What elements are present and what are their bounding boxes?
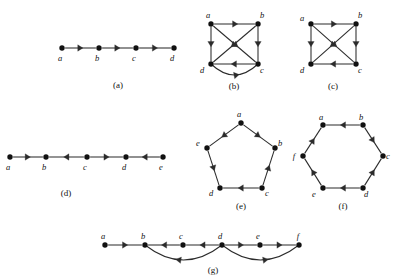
arrowhead (210, 165, 216, 171)
vertex-e-b (272, 145, 277, 150)
arrowhead (64, 154, 69, 160)
vertex-c-a (308, 21, 313, 26)
edge-g-d-f (222, 245, 299, 263)
vertex-a-c (133, 45, 138, 50)
vertex-g-e (257, 242, 262, 247)
edge-e-a-e (209, 125, 238, 146)
vertex-label-e-a: a (237, 109, 241, 119)
arrowhead (330, 61, 335, 67)
edge-g-c-b (148, 242, 180, 248)
edge-d-e-d (129, 154, 160, 160)
vertex-d-a (7, 154, 12, 159)
arrowhead (277, 242, 282, 248)
arrowhead (340, 122, 345, 128)
arrowhead (353, 42, 359, 47)
edge-c-a-d (308, 27, 314, 61)
arrowhead (208, 42, 214, 47)
vertex-e-d (217, 185, 222, 190)
vertex-b-d (208, 61, 213, 66)
vertex-g-f (296, 242, 301, 247)
arrowhead (142, 154, 147, 160)
edge-c-a-b (314, 21, 353, 27)
caption-f: (f) (339, 201, 348, 211)
arrowhead (123, 242, 128, 248)
vertex-label-a-d: d (170, 53, 175, 63)
edge-g-d-c (186, 242, 219, 248)
arrowhead (308, 42, 314, 47)
caption-a: (a) (113, 80, 123, 90)
vertex-label-c-a: a (300, 13, 304, 23)
panel-d: abcde (6, 154, 166, 172)
arrowhead (25, 154, 30, 160)
vertex-label-d-d: d (122, 162, 127, 172)
vertex-e-c (259, 185, 264, 190)
vertex-label-g-e: e (256, 231, 260, 241)
vertex-label-e-b: b (278, 138, 282, 148)
edge-f-e-f (305, 159, 322, 186)
vertex-label-e-d: d (209, 188, 214, 198)
edge-c-c-d (314, 61, 353, 67)
vertex-label-b-a: a (206, 10, 210, 20)
edge-e-c-d (223, 185, 259, 191)
vertex-label-d-e: e (159, 162, 163, 172)
panel-f: abcdef (293, 112, 390, 199)
vertex-g-a (102, 242, 107, 247)
vertex-f-a (320, 122, 325, 127)
panel-c: abcd (300, 10, 362, 75)
vertex-label-a-a: a (58, 53, 62, 63)
caption-b: (b) (229, 81, 240, 91)
caption-g: (g) (208, 265, 219, 275)
vertex-g-d (219, 242, 224, 247)
vertex-d-d (123, 154, 128, 159)
edge-f-d-c (365, 159, 382, 186)
arrowhead (222, 132, 228, 138)
vertex-label-f-d: d (364, 189, 369, 199)
vertex-label-c-c: c (358, 65, 362, 75)
arrowhead (340, 185, 345, 191)
arrowhead (200, 242, 205, 248)
figure-canvas: abcdabcdabcdabcdeabcdeabcdefabcdef(a)(b)… (0, 0, 406, 279)
edge-g-d-e (225, 242, 257, 248)
edge-g-d-b (145, 245, 222, 263)
arrowhead (233, 72, 239, 78)
vertex-label-e-e: e (196, 138, 200, 148)
vertex-f-c (380, 153, 385, 158)
vertex-a-a (59, 45, 64, 50)
vertex-label-b-d: d (200, 65, 205, 75)
arrowhead (161, 242, 166, 248)
vertex-label-d-c: c (83, 162, 87, 172)
edge-d-c-d (90, 154, 123, 160)
vertex-label-g-a: a (101, 231, 105, 241)
vertex-label-f-f: f (293, 151, 297, 161)
arrowhead (233, 21, 238, 27)
edge-a-a-b (65, 45, 96, 51)
panel-b: abcd (200, 10, 264, 79)
panel-g: abcdef (101, 231, 302, 263)
vertex-label-a-c: c (132, 53, 136, 63)
arrowhead (263, 257, 269, 263)
vertex-label-g-f: f (297, 231, 301, 241)
vertex-g-b (142, 242, 147, 247)
vertex-label-g-c: c (179, 231, 183, 241)
edge-f-f-a (305, 128, 322, 154)
edge-e-a-b (243, 125, 272, 146)
caption-e: (e) (236, 201, 246, 211)
panel-e: abcde (196, 109, 282, 198)
vertex-label-f-b: b (359, 112, 363, 122)
vertex-label-c-b: b (358, 10, 362, 20)
vertex-b-a (208, 21, 213, 26)
vertex-label-d-a: a (6, 162, 10, 172)
edge-b-a-b (214, 21, 255, 27)
vertex-label-d-b: b (42, 162, 46, 172)
edge-e-c-b (263, 151, 274, 185)
arrowhead (78, 45, 83, 51)
vertex-label-f-c: c (386, 151, 390, 161)
edge-d-a-b (13, 154, 43, 160)
edge-b-d-c (211, 64, 258, 79)
vertex-g-c (180, 242, 185, 247)
edge-b-b-c (255, 27, 261, 61)
vertex-b-b (255, 21, 260, 26)
edge-f-b-a (326, 122, 360, 128)
edge-b-a-d (208, 27, 214, 61)
vertex-label-f-a: a (319, 112, 323, 122)
